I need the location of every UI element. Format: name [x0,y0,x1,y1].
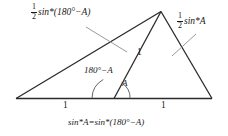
fraction-denominator: 2 [177,22,183,30]
fraction-numerator: 1 [177,12,183,20]
base-right-length-label: 1 [161,101,166,111]
acute-angle-label: A [122,79,128,88]
left-side-expression: sin*(180°−A) [38,7,90,17]
geometry-figure: 1 2 sin*(180°−A) 1 2 sin*A 1 180°−A A 1 … [0,0,228,136]
left-side-length-label: 1 2 sin*(180°−A) [31,3,90,21]
identity-caption: sin*A=sin*(180°−A) [68,118,144,127]
fraction-denominator: 2 [31,13,37,21]
right-side-length-label: 1 2 sin*A [177,12,206,30]
one-half-fraction-left: 1 2 [31,3,37,21]
cevian-length-label: 1 [137,48,142,58]
left-label-leader-line [86,27,127,52]
right-side-expression: sin*A [184,16,206,26]
obtuse-angle-label: 180°−A [84,66,113,75]
obtuse-angle-arc [92,80,103,99]
one-half-fraction-right: 1 2 [177,12,183,30]
fraction-numerator: 1 [31,3,37,11]
base-left-length-label: 1 [63,101,68,111]
